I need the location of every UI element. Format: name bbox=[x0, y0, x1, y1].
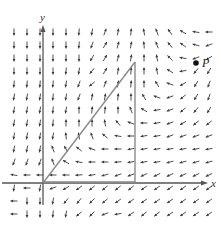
field-arrow bbox=[207, 81, 210, 88]
field-arrow bbox=[206, 148, 213, 151]
field-arrow-head bbox=[52, 59, 55, 62]
field-arrow bbox=[167, 212, 173, 216]
field-arrow bbox=[207, 94, 210, 101]
field-arrow bbox=[26, 107, 29, 114]
field-arrow bbox=[13, 29, 16, 36]
x-axis-arrowhead bbox=[201, 181, 208, 186]
field-arrow bbox=[130, 29, 133, 36]
field-arrow bbox=[13, 68, 16, 75]
field-arrow bbox=[103, 42, 107, 48]
field-arrow-head bbox=[39, 215, 42, 218]
field-arrow-head bbox=[52, 46, 55, 49]
field-arrow bbox=[65, 211, 68, 218]
field-arrow-head bbox=[52, 72, 55, 75]
field-arrow-head bbox=[52, 33, 55, 36]
field-arrow bbox=[143, 55, 146, 62]
field-arrow-head bbox=[52, 111, 55, 114]
field-arrow bbox=[156, 68, 159, 75]
field-arrow bbox=[102, 174, 109, 177]
field-arrow bbox=[115, 199, 121, 203]
field-arrow-head bbox=[24, 174, 27, 177]
field-arrow bbox=[65, 42, 68, 49]
field-arrow bbox=[193, 148, 200, 151]
field-arrow bbox=[194, 81, 198, 87]
field-arrow bbox=[63, 160, 69, 164]
field-arrow bbox=[141, 161, 148, 164]
field-arrow bbox=[180, 161, 187, 164]
field-arrow bbox=[26, 120, 29, 127]
field-arrow-head bbox=[78, 120, 81, 123]
field-arrow-head bbox=[115, 161, 118, 164]
field-arrow bbox=[115, 174, 122, 177]
field-arrow bbox=[26, 42, 29, 49]
field-arrow bbox=[52, 107, 55, 114]
field-arrow bbox=[102, 213, 109, 216]
field-arrow bbox=[180, 70, 187, 73]
field-arrow bbox=[65, 94, 68, 101]
field-arrow bbox=[11, 200, 18, 203]
field-arrow bbox=[91, 107, 94, 114]
field-arrow-head bbox=[143, 55, 146, 58]
vector-field-figure: x y P bbox=[0, 0, 221, 228]
field-arrow-head bbox=[11, 200, 14, 203]
field-arrow bbox=[117, 29, 120, 36]
field-arrow bbox=[76, 161, 83, 164]
field-arrow-head bbox=[26, 59, 29, 62]
x-axis-label: x bbox=[210, 177, 216, 189]
field-arrow bbox=[52, 120, 55, 127]
field-arrow bbox=[13, 185, 16, 192]
point-p-dot bbox=[193, 60, 199, 66]
y-axis-arrowhead bbox=[41, 25, 46, 32]
field-arrow bbox=[78, 29, 81, 36]
field-arrow bbox=[26, 29, 29, 36]
field-arrow bbox=[39, 107, 42, 114]
field-arrow bbox=[193, 31, 200, 34]
field-arrow bbox=[128, 135, 135, 138]
field-arrow-head bbox=[11, 213, 14, 216]
field-arrow-head bbox=[39, 33, 42, 36]
field-arrow-head bbox=[65, 46, 68, 49]
field-arrow bbox=[90, 199, 95, 204]
field-arrow bbox=[207, 107, 211, 113]
field-arrow bbox=[180, 212, 186, 216]
field-arrow-head bbox=[26, 85, 29, 88]
field-arrow bbox=[90, 133, 93, 140]
field-arrow bbox=[12, 159, 15, 166]
field-arrow bbox=[52, 42, 55, 49]
field-arrow bbox=[39, 81, 42, 88]
field-arrow bbox=[155, 81, 159, 87]
field-arrow bbox=[76, 147, 81, 151]
field-arrow bbox=[154, 186, 160, 190]
field-arrow bbox=[193, 161, 200, 164]
field-arrow bbox=[193, 135, 200, 138]
field-arrow bbox=[11, 174, 18, 177]
field-arrow bbox=[52, 55, 55, 62]
field-arrow bbox=[51, 146, 54, 153]
field-arrow bbox=[167, 135, 174, 138]
field-arrow-head bbox=[39, 59, 42, 62]
field-arrow-head bbox=[52, 98, 55, 101]
field-arrow-head bbox=[130, 81, 133, 84]
field-arrow bbox=[38, 159, 41, 166]
field-arrow-head bbox=[89, 161, 92, 164]
field-arrow-head bbox=[63, 174, 66, 177]
field-arrow bbox=[52, 94, 55, 101]
field-arrow bbox=[143, 42, 146, 49]
field-arrow-head bbox=[65, 59, 68, 62]
field-arrow bbox=[180, 121, 186, 125]
field-arrow bbox=[78, 68, 81, 75]
field-arrow bbox=[180, 135, 187, 138]
field-arrow bbox=[39, 94, 42, 101]
field-arrow bbox=[167, 69, 173, 73]
field-arrow bbox=[39, 146, 42, 153]
field-arrow bbox=[128, 199, 134, 203]
field-arrow bbox=[167, 174, 173, 177]
field-arrow-head bbox=[141, 122, 144, 125]
field-arrow-head bbox=[26, 72, 29, 75]
field-arrow bbox=[104, 120, 107, 127]
field-arrow bbox=[52, 133, 55, 140]
field-arrow bbox=[76, 174, 83, 177]
field-arrow-head bbox=[117, 94, 120, 97]
field-arrow bbox=[115, 186, 120, 190]
field-arrow bbox=[13, 42, 16, 49]
